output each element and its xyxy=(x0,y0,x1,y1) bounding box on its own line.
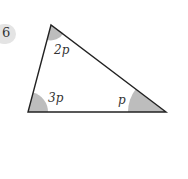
angle-label-top: 2p xyxy=(54,43,69,57)
angle-label-bottom-left: 3p xyxy=(48,91,63,105)
triangle-diagram xyxy=(0,0,188,179)
angle-sector-bottom-right xyxy=(128,89,166,112)
angle-label-bottom-right: p xyxy=(118,93,126,107)
